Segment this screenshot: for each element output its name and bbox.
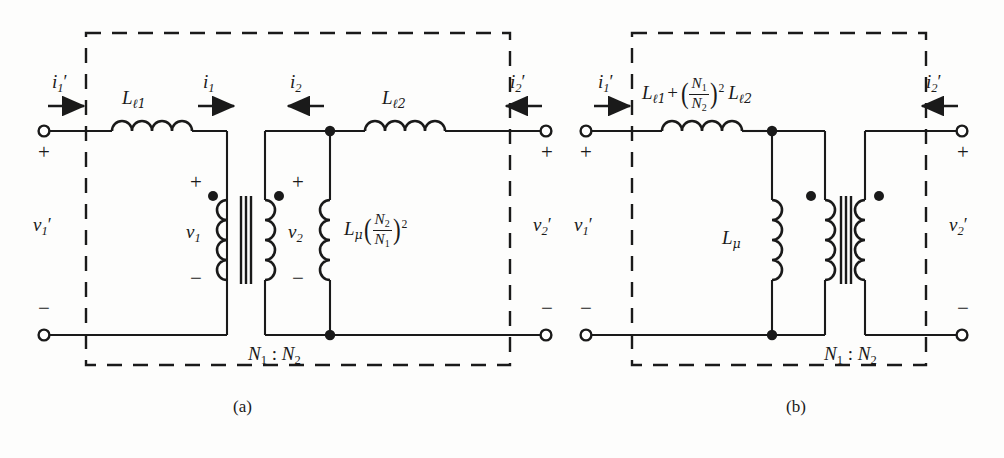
circuit-schematic-svg: [0, 0, 1004, 458]
label-i1-prime-b: i1′: [598, 72, 614, 94]
polarity-plus-output-b: +: [957, 142, 969, 163]
polarity-minus-output-a: −: [541, 298, 553, 319]
input-terminal-top-a[interactable]: [39, 126, 50, 137]
output-terminal-bottom-b[interactable]: [957, 330, 968, 341]
magnetizing-inductor-a: [320, 200, 330, 280]
polarity-minus-v2-a: −: [292, 268, 304, 289]
label-leakage-inductor-secondary-a: Lℓ2: [382, 88, 406, 110]
output-terminal-top-b[interactable]: [957, 126, 968, 137]
polarity-dot-secondary-a: [274, 191, 284, 201]
polarity-minus-input-a: −: [38, 298, 50, 319]
transformer-secondary-winding-a: [265, 200, 275, 280]
transformer-primary-winding-b: [825, 200, 835, 280]
polarity-minus-v1-a: −: [190, 268, 202, 289]
leakage-inductor-secondary-a: [365, 121, 445, 131]
polarity-plus-v2-a: +: [292, 172, 304, 193]
polarity-plus-v1-a: +: [190, 172, 202, 193]
polarity-minus-output-b: −: [957, 298, 969, 319]
input-terminal-bottom-b[interactable]: [581, 330, 592, 341]
leakage-inductor-primary-a: [112, 121, 192, 131]
label-i1-a: i1: [203, 72, 215, 94]
label-i1-prime-a: i1′: [52, 72, 68, 94]
label-v2-prime-b: v2′: [949, 215, 968, 237]
polarity-plus-output-a: +: [541, 142, 553, 163]
label-i2-prime-b: i2′: [926, 72, 942, 94]
polarity-dot-secondary-b: [874, 191, 884, 201]
output-terminal-top-a[interactable]: [541, 126, 552, 137]
label-i2-a: i2: [290, 72, 302, 94]
combined-leakage-inductor-b: [662, 121, 742, 131]
polarity-minus-input-b: −: [580, 298, 592, 319]
output-terminal-bottom-a[interactable]: [541, 330, 552, 341]
label-v1-prime-a: v1′: [33, 215, 52, 237]
figure-canvas: i1′ Lℓ1 i1 i2 Lℓ2 i2′ + − v1′ + − v1 + −…: [0, 0, 1004, 458]
label-v2-a: v2: [288, 222, 303, 244]
label-v1-a: v1: [186, 222, 201, 244]
label-v2-prime-a: v2′: [533, 215, 552, 237]
caption-b: (b): [786, 398, 806, 415]
label-leakage-inductor-primary-a: Lℓ1: [122, 88, 146, 110]
label-turns-ratio-a: N1 : N2: [248, 344, 301, 366]
label-v1-prime-b: v1′: [574, 215, 593, 237]
label-turns-ratio-b: N1 : N2: [824, 344, 877, 366]
transformer-primary-winding-a: [217, 200, 227, 280]
label-magnetizing-inductance-a: Lμ(N2N1)2: [344, 212, 407, 250]
polarity-plus-input-a: +: [38, 142, 50, 163]
magnetizing-inductor-b: [772, 200, 782, 280]
input-terminal-top-b[interactable]: [581, 126, 592, 137]
label-magnetizing-inductance-b: Lμ: [722, 228, 741, 250]
polarity-plus-input-b: +: [580, 142, 592, 163]
label-combined-leakage-inductance-b: Lℓ1 + (N1N2)2 Lℓ2: [642, 76, 752, 114]
polarity-dot-primary-a: [208, 191, 218, 201]
label-i2-prime-a: i2′: [510, 72, 526, 94]
circuit-b-group: [581, 33, 968, 365]
caption-a: (a): [233, 398, 252, 415]
transformer-secondary-winding-b: [855, 200, 865, 280]
input-terminal-bottom-a[interactable]: [39, 330, 50, 341]
polarity-dot-primary-b: [806, 191, 816, 201]
